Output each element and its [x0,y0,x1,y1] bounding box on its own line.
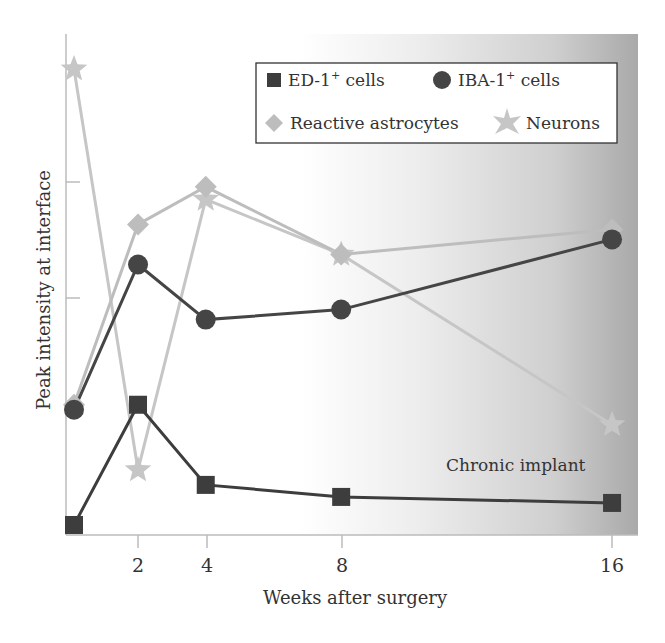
data-point-square-icon [332,488,350,506]
x-tick-label: 16 [600,554,624,576]
x-axis-title: Weeks after surgery [263,587,448,608]
data-point-circle-icon [602,229,622,249]
x-ticks [138,535,612,548]
legend: ED-1+ cells IBA-1+ cells Reactive astroc… [256,63,617,143]
chronic-implant-label: Chronic implant [446,455,586,475]
data-point-diamond-icon [127,213,149,235]
legend-neurons-label: Neurons [526,113,600,133]
legend-astro-label: Reactive astrocytes [290,113,459,133]
x-tick-label: 4 [201,554,213,576]
data-point-square-icon [65,516,83,534]
data-point-circle-icon [64,400,84,420]
data-point-star-icon [125,456,152,481]
legend-circle-icon [433,71,451,89]
x-tick-label: 2 [132,554,144,576]
data-point-circle-icon [128,254,148,274]
data-point-square-icon [603,494,621,512]
data-point-diamond-icon [195,176,217,198]
line-chart: 2 4 8 16 Weeks after surgery Peak intens… [0,0,665,643]
y-axis-title: Peak intensity at interface [33,170,54,410]
legend-square-icon [267,73,281,87]
data-point-square-icon [197,476,215,494]
legend-iba1-label: IBA-1 [458,70,506,90]
x-tick-label: 8 [336,554,348,576]
legend-ed1-label: ED-1 [288,70,331,90]
data-point-square-icon [129,396,147,414]
data-point-circle-icon [331,300,351,320]
data-point-circle-icon [196,310,216,330]
